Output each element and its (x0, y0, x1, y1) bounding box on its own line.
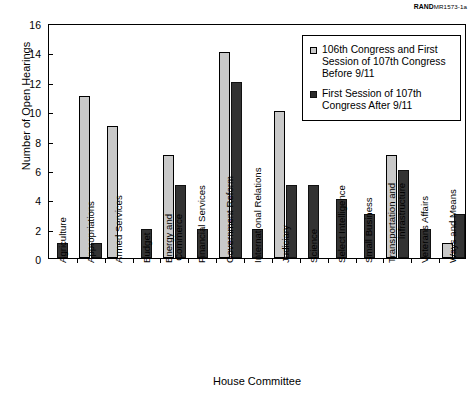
x-axis-label-line: Veterans Affairs (419, 196, 430, 263)
x-tick-mark (133, 258, 134, 263)
x-axis-label-line: Infrastructure (398, 183, 408, 263)
x-tick-mark (188, 258, 189, 263)
x-tick-mark (105, 258, 106, 263)
y-tick-label-10: 10 (15, 108, 41, 119)
x-axis-label: Armed Services (114, 195, 124, 263)
chart-legend: 106th Congress and First Session of 107t… (302, 35, 461, 121)
y-tick-label-16: 16 (15, 20, 41, 31)
x-tick-mark (356, 258, 357, 263)
x-axis-label: International Relations (253, 168, 263, 263)
x-axis-label-line: Government Reform (224, 176, 235, 263)
x-axis-label: Budget (142, 233, 152, 263)
y-tick-label-2: 2 (15, 225, 41, 236)
source-tag: RANDMR1573-1a (414, 3, 467, 10)
x-axis-label-line: Small Business (363, 197, 374, 263)
legend-swatch-icon (310, 91, 317, 98)
legend-entry: First Session of 107th Congress After 9/… (310, 88, 453, 112)
y-tick-label-0: 0 (15, 255, 41, 266)
bar-chart-figure: RANDMR1573-1a Number of Open Hearings Ho… (0, 0, 473, 396)
x-axis-label-line: Financial Services (196, 185, 207, 263)
x-axis-label-line: Commerce (175, 214, 185, 263)
x-axis-label: Financial Services (197, 185, 207, 263)
x-axis-label: Ways and Means (448, 189, 458, 263)
x-axis-label-line: Armed Services (113, 195, 124, 263)
source-tag-code: MR1573-1a (434, 3, 467, 10)
x-axis-label: Select Intelligence (337, 185, 347, 263)
x-axis-label: Agriculture (58, 217, 68, 263)
x-tick-mark (439, 258, 440, 263)
x-tick-mark (160, 258, 161, 263)
y-tick-label-12: 12 (15, 79, 41, 90)
x-tick-mark (328, 258, 329, 263)
x-axis-label-line: Select Intelligence (336, 185, 347, 263)
x-axis-label-line: Agriculture (57, 217, 68, 263)
x-axis-label-line: Budget (141, 233, 152, 263)
x-tick-mark (272, 258, 273, 263)
x-axis-label: Transportation andInfrastructure (387, 183, 408, 263)
y-tick-label-4: 4 (15, 196, 41, 207)
x-axis-label: Science (309, 229, 319, 263)
x-axis-label-line: Judiciary (280, 225, 291, 263)
y-tick-label-6: 6 (15, 167, 41, 178)
source-tag-mark: RAND (414, 3, 434, 10)
x-axis-label: Judiciary (281, 225, 291, 263)
x-axis-label: Energy andCommerce (164, 214, 185, 263)
x-axis-label-line: International Relations (252, 168, 263, 263)
x-axis-label: Veterans Affairs (420, 196, 430, 263)
x-axis-title: House Committee (48, 375, 466, 387)
x-tick-mark (216, 258, 217, 263)
bar-group (272, 25, 300, 258)
legend-label: 106th Congress and First Session of 107t… (322, 44, 453, 81)
x-tick-mark (77, 258, 78, 263)
x-axis-label-line: Science (308, 229, 319, 263)
legend-swatch-icon (310, 47, 317, 54)
x-axis-label: Small Business (364, 197, 374, 263)
x-tick-mark (300, 258, 301, 263)
y-tick-label-8: 8 (15, 137, 41, 148)
legend-label: First Session of 107th Congress After 9/… (322, 88, 453, 112)
x-tick-mark (244, 258, 245, 263)
bar-group (133, 25, 161, 258)
x-tick-mark (411, 258, 412, 263)
x-axis-label: Government Reform (225, 176, 235, 263)
x-axis-label-line: Appropriations (85, 201, 96, 263)
legend-entry: 106th Congress and First Session of 107t… (310, 44, 453, 81)
x-tick-mark (383, 258, 384, 263)
y-tick-label-14: 14 (15, 49, 41, 60)
x-axis-label: Appropriations (86, 201, 96, 263)
x-axis-label-line: Ways and Means (447, 189, 458, 263)
